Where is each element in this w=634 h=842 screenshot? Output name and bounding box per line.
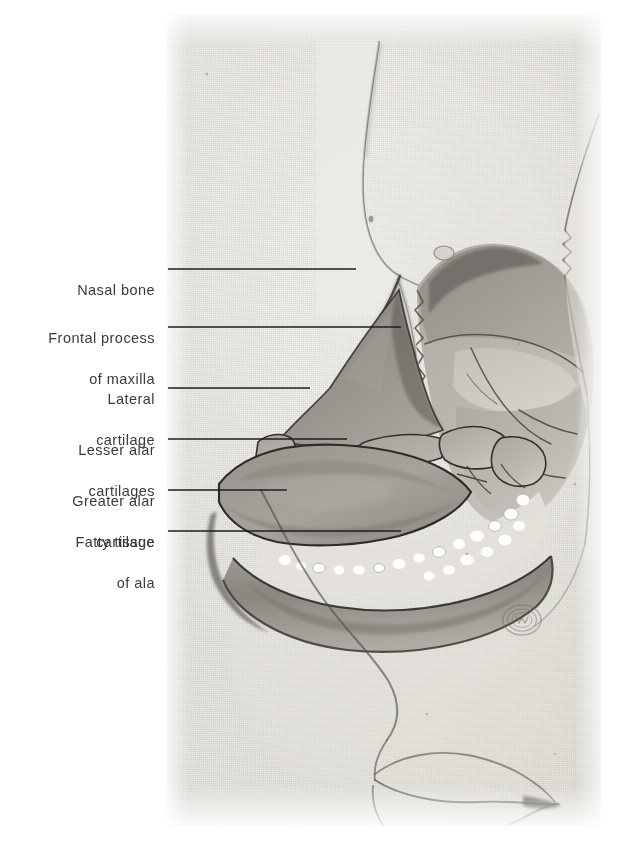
label-fatty-tissue-of-ala-line-1: Fatty tissue [5, 532, 155, 553]
label-fatty-tissue-of-ala-line-2: of ala [5, 573, 155, 594]
label-lesser-alar-cartilages-line-1: Lesser alar [5, 440, 155, 461]
figure-root: Nasal bone Frontal process of maxilla La… [0, 0, 634, 842]
label-column: Nasal bone Frontal process of maxilla La… [0, 0, 167, 842]
label-greater-alar-cartilage-line-1: Greater alar [5, 491, 155, 512]
nasal-anatomy-illustration [167, 14, 601, 826]
anatomical-plate [167, 14, 601, 826]
label-nasal-bone-line-1: Nasal bone [5, 280, 155, 301]
label-lateral-cartilage-line-1: Lateral [5, 389, 155, 410]
label-frontal-process-of-maxilla-line-1: Frontal process [5, 328, 155, 349]
label-fatty-tissue-of-ala: Fatty tissue of ala [5, 511, 155, 614]
